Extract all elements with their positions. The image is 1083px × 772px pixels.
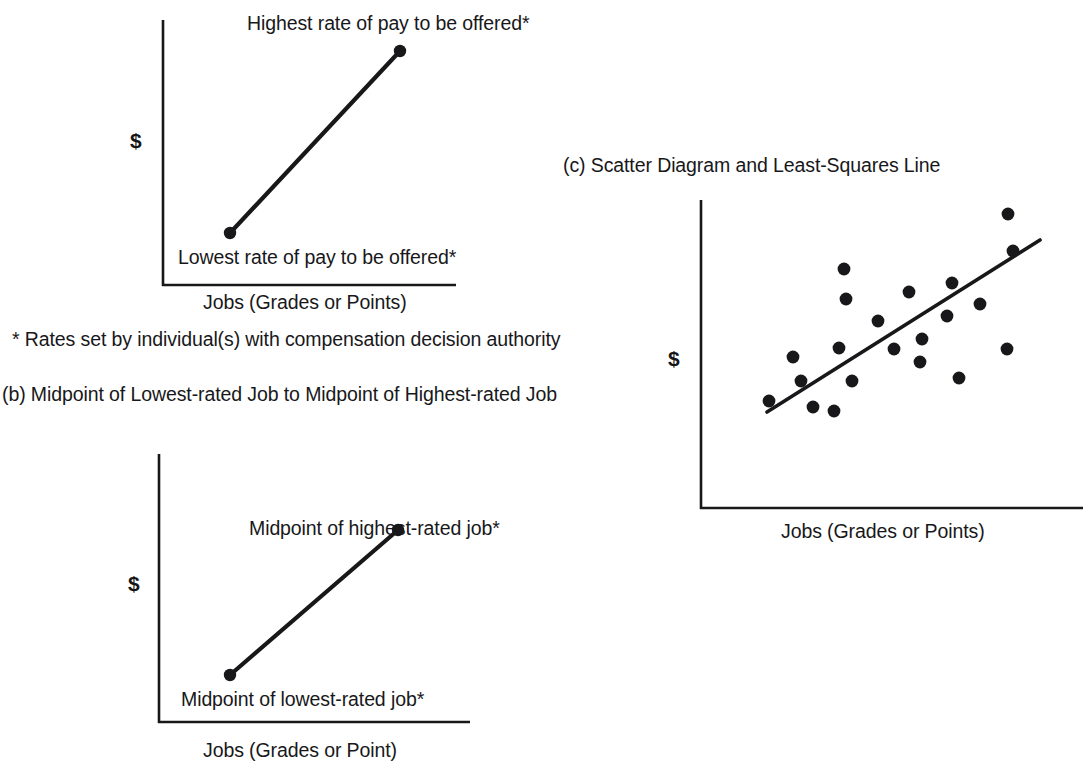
scatter-point <box>1001 343 1014 356</box>
scatter-point <box>807 401 820 414</box>
panel-c-scatter-points <box>763 208 1020 418</box>
scatter-point <box>787 351 800 364</box>
panel-b-midpoint-line <box>230 530 398 675</box>
panel-c-svg <box>690 196 1083 516</box>
figure-footnote: * Rates set by individual(s) with compen… <box>12 328 560 351</box>
panel-b-x-axis-label: Jobs (Grades or Point) <box>203 739 397 762</box>
scatter-point <box>1002 208 1015 221</box>
scatter-point <box>916 333 929 346</box>
panel-a-y-axis-label: $ <box>130 130 142 151</box>
scatter-point <box>833 342 846 355</box>
panel-c-least-squares-line <box>767 240 1040 412</box>
panel-b-caption: (b) Midpoint of Lowest-rated Job to Midp… <box>2 383 557 406</box>
panel-b-highest-label: Midpoint of highest-rated job* <box>249 519 500 539</box>
scatter-point <box>953 372 966 385</box>
scatter-point <box>828 405 841 418</box>
panel-a-highest-label: Highest rate of pay to be offered* <box>247 14 529 34</box>
panel-c-caption: (c) Scatter Diagram and Least-Squares Li… <box>563 154 940 177</box>
scatter-point <box>846 375 859 388</box>
figure-page: Highest rate of pay to be offered* Lowes… <box>0 0 1083 772</box>
scatter-point <box>946 277 959 290</box>
scatter-point <box>914 356 927 369</box>
scatter-point <box>1007 245 1020 258</box>
panel-b-lowest-point-marker <box>224 669 236 681</box>
panel-c-y-axis-label: $ <box>668 348 680 369</box>
scatter-point <box>888 343 901 356</box>
scatter-point <box>872 315 885 328</box>
panel-a-pay-line <box>230 51 400 233</box>
scatter-point <box>838 263 851 276</box>
scatter-point <box>795 375 808 388</box>
scatter-point <box>903 286 916 299</box>
panel-a-lowest-label: Lowest rate of pay to be offered* <box>178 248 456 268</box>
panel-b-y-axis-label: $ <box>128 573 140 594</box>
panel-a-highest-point-marker <box>394 45 406 57</box>
scatter-point <box>974 298 987 311</box>
scatter-point <box>763 395 776 408</box>
chart-panel-c <box>690 196 1083 516</box>
panel-c-x-axis-label: Jobs (Grades or Points) <box>781 520 985 543</box>
panel-a-x-axis-label: Jobs (Grades or Points) <box>203 291 407 314</box>
panel-b-lowest-label: Midpoint of lowest-rated job* <box>181 690 424 710</box>
panel-a-lowest-point-marker <box>224 227 236 239</box>
scatter-point <box>941 310 954 323</box>
scatter-point <box>840 293 853 306</box>
